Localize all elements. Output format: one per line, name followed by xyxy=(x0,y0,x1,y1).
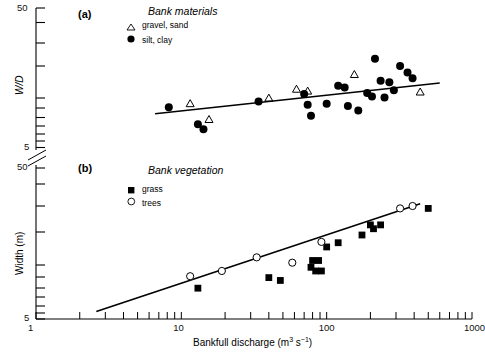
data-point-filled-circle xyxy=(323,100,331,108)
data-point-filled-circle xyxy=(304,101,312,109)
panel-a-ytick-50: 50 xyxy=(17,2,28,13)
data-point-open-triangle xyxy=(205,115,213,122)
panel-b-y-axis-title: Width (m) xyxy=(14,232,25,275)
data-point-filled-circle xyxy=(307,112,315,120)
x-tick-label: 10 xyxy=(173,322,184,333)
data-point-filled-circle xyxy=(341,83,349,91)
data-point-open-circle xyxy=(409,202,416,209)
panel-b-data-layer xyxy=(96,202,431,311)
panel-a-ytick-5: 5 xyxy=(24,141,29,152)
data-point-filled-circle xyxy=(371,55,379,63)
data-point-filled-square xyxy=(425,205,432,212)
data-point-filled-square xyxy=(359,232,366,239)
x-axis-title-end: ) xyxy=(309,337,312,348)
x-axis-title-sup2: −1 xyxy=(301,336,309,343)
x-tick-label: 1 xyxy=(28,322,33,333)
data-point-filled-circle xyxy=(199,125,207,133)
data-point-filled-square xyxy=(377,221,384,228)
data-point-filled-circle xyxy=(255,97,263,105)
x-axis-title-mid: s xyxy=(293,337,301,348)
data-point-open-circle xyxy=(218,267,225,274)
panel-a-legend-entry-1: silt, clay xyxy=(142,35,172,45)
panel-a-data-layer xyxy=(155,55,440,134)
data-point-filled-circle xyxy=(381,94,389,102)
data-point-filled-circle xyxy=(165,103,173,111)
x-tick-label: 1000 xyxy=(464,322,485,333)
data-point-open-triangle xyxy=(292,85,300,92)
x-axis-title-main: Bankfull discharge (m xyxy=(193,337,289,348)
panel-a-y-axis-title: W/D xyxy=(14,76,25,95)
data-point-open-circle xyxy=(253,254,260,261)
x-axis-title: Bankfull discharge (m3 s−1) xyxy=(193,336,312,348)
x-axis-ticks xyxy=(36,312,472,319)
data-point-filled-square xyxy=(309,257,316,264)
panel-b-axes xyxy=(36,165,45,319)
data-point-filled-circle xyxy=(344,102,352,110)
data-point-open-circle xyxy=(187,273,194,280)
data-point-open-triangle xyxy=(265,94,273,101)
data-point-filled-circle xyxy=(368,93,376,101)
data-point-filled-square xyxy=(265,274,272,281)
panel-a-tag: (a) xyxy=(78,8,91,20)
data-point-filled-square xyxy=(277,277,284,284)
data-point-filled-circle xyxy=(409,74,417,82)
data-point-filled-circle xyxy=(354,106,362,114)
panel-a-legend-title: Bank materials xyxy=(148,5,217,17)
data-point-open-triangle xyxy=(186,100,194,107)
data-point-filled-circle xyxy=(377,77,385,85)
panel-b-legend-title: Bank vegetation xyxy=(148,164,223,176)
x-tick-label: 100 xyxy=(319,322,335,333)
panel-b-legend-entry-0: grass xyxy=(142,184,163,194)
data-point-filled-square xyxy=(315,257,322,264)
panel-a-axes xyxy=(36,8,45,150)
data-point-filled-circle xyxy=(385,78,393,86)
data-point-filled-circle xyxy=(390,86,398,94)
panel-b-tag: (b) xyxy=(78,162,92,174)
data-point-filled-square xyxy=(335,239,342,246)
data-point-open-circle xyxy=(396,205,403,212)
data-point-open-triangle xyxy=(416,88,424,95)
data-point-open-circle xyxy=(289,259,296,266)
data-point-filled-square xyxy=(318,268,325,275)
data-point-open-circle xyxy=(318,238,325,245)
panel-b-ytick-50: 50 xyxy=(17,161,28,172)
data-point-filled-square xyxy=(370,225,377,232)
data-point-filled-square xyxy=(194,285,201,292)
data-point-filled-circle xyxy=(300,90,308,98)
panel-b-legend-entry-1: trees xyxy=(142,198,161,208)
panel-a-legend-entry-0: gravel, sand xyxy=(142,20,188,30)
data-point-filled-circle xyxy=(396,62,404,70)
data-point-open-triangle xyxy=(350,71,358,78)
axis-break-symbol xyxy=(28,150,46,166)
